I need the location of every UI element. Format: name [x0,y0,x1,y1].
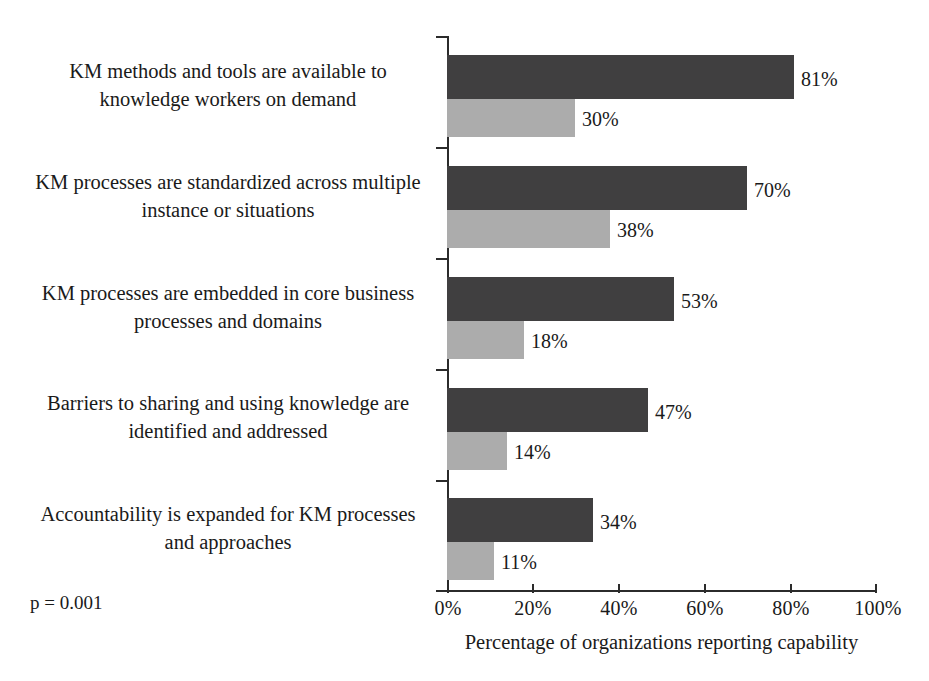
plot-area: 81% 30% 70% 38% 53% 18% 47% 14% 34% 11% [447,36,875,591]
x-axis-title: Percentage of organizations reporting ca… [447,629,876,655]
x-axis-tick [875,584,877,593]
bar-light-1 [447,99,575,137]
bar-value-dark-2: 70% [754,180,791,200]
bar-value-light-4: 14% [514,442,551,462]
bar-value-dark-4: 47% [655,402,692,422]
bar-value-light-2: 38% [617,220,654,240]
bar-value-dark-3: 53% [681,291,718,311]
bar-light-4 [447,432,507,470]
bar-value-dark-1: 81% [801,69,838,89]
x-tick-label-80: 80% [772,596,809,620]
bar-value-light-3: 18% [531,331,568,351]
bar-chart: 0% 20% 40% 60% 80% 100% KM methods and t… [0,0,929,681]
y-axis-tick [436,369,447,371]
y-axis-tick [436,480,447,482]
category-label-4: Barriers to sharing and using knowledge … [13,389,443,445]
y-axis-tick [436,590,447,592]
x-tick-label-20: 20% [514,596,551,620]
bar-dark-3 [447,277,674,321]
bar-value-dark-5: 34% [600,512,637,532]
x-tick-label-100: 100% [854,596,901,620]
bar-light-3 [447,321,524,359]
category-label-2: KM processes are standardized across mul… [13,168,443,224]
bar-dark-4 [447,388,648,432]
category-label-3: KM processes are embedded in core busine… [13,279,443,335]
y-axis-tick [436,147,447,149]
y-axis-tick [436,258,447,260]
bar-dark-1 [447,55,794,99]
x-tick-label-60: 60% [686,596,723,620]
bar-value-light-5: 11% [501,552,537,572]
bar-dark-2 [447,166,747,210]
bar-value-light-1: 30% [582,109,619,129]
bar-light-5 [447,542,494,580]
bar-dark-5 [447,498,593,542]
y-axis-tick [436,36,447,38]
x-tick-label-40: 40% [600,596,637,620]
x-tick-label-0: 0% [434,596,461,620]
category-label-5: Accountability is expanded for KM proces… [13,500,443,556]
p-value-annotation: p = 0.001 [30,592,102,614]
category-label-1: KM methods and tools are available to kn… [13,57,443,113]
bar-light-2 [447,210,610,248]
